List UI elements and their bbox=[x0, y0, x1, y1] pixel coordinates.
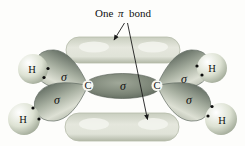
pi-bond-lobe-top bbox=[66, 37, 180, 63]
pi-symbol: π bbox=[118, 7, 124, 19]
annotation-title: One π bond bbox=[95, 7, 152, 19]
annotation-title-post: bond bbox=[129, 7, 152, 19]
pi-bond-lobe-bottom bbox=[65, 113, 179, 141]
hydrogen-label-upper-right: H bbox=[208, 63, 216, 74]
pi-sigma-bond-diagram: σ σ σ σ σ C C H H H H One π bond bbox=[0, 0, 245, 146]
annotation-title-pre: One bbox=[95, 7, 113, 19]
carbon-label-left: C bbox=[84, 80, 91, 91]
hydrogen-label-lower-right: H bbox=[218, 115, 226, 126]
hydrogen-label-lower-left: H bbox=[19, 114, 27, 125]
hydrogen-label-upper-left: H bbox=[28, 64, 36, 75]
figure-canvas: σ σ σ σ σ C C H H H H One π bond bbox=[0, 0, 245, 146]
carbon-label-right: C bbox=[153, 80, 160, 91]
